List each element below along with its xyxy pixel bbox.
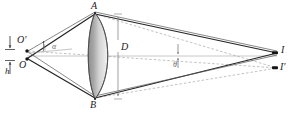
- label-lens-diameter: D: [121, 42, 128, 52]
- label-angle-alpha: α: [52, 43, 56, 51]
- label-angle-theta: θ: [173, 61, 177, 69]
- label-image-point-i: I: [281, 45, 284, 55]
- vertex-a-dot: [94, 12, 96, 14]
- label-point-a: A: [91, 1, 97, 11]
- label-image-point-i-prime: I': [280, 62, 285, 72]
- image-point-markers: [272, 51, 278, 69]
- image-point-iprime-dot: [272, 66, 278, 69]
- diameter-dimension-group: [114, 14, 122, 99]
- aux-ray-oprime-to-iprime: [28, 51, 277, 68]
- aux-ray-b-to-iprime: [95, 68, 277, 98]
- label-object-point-o-prime: O': [17, 35, 26, 45]
- ray-o-to-b: [28, 59, 95, 98]
- lens-element-group: [88, 13, 108, 99]
- object-point-oprime-dot: [25, 49, 28, 52]
- label-point-b: B: [90, 100, 96, 110]
- ray-oprime-to-b: [28, 52, 95, 96]
- label-object-height-h: h: [5, 67, 10, 76]
- ray-b-lower-to-i: [95, 55, 277, 96]
- ray-oprime-to-a: [28, 12, 95, 51]
- secondary-rays-group: [28, 12, 277, 96]
- label-object-point-o: O: [19, 60, 26, 70]
- ray-o-to-a: [28, 14, 95, 58]
- ray-diagram-figure: A B D O' O h I I' α θ: [0, 0, 292, 114]
- image-point-i-dot: [272, 51, 278, 54]
- ray-diagram-canvas: [0, 0, 292, 114]
